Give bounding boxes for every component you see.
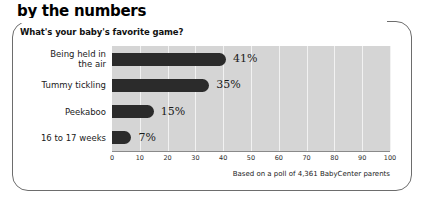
- x-tick-label: 30: [191, 154, 199, 162]
- chart-question: What's your baby's favorite game?: [20, 27, 183, 37]
- category-axis-labels: Being held inthe airTummy ticklingPeekab…: [10, 46, 106, 151]
- category-label: Tummy tickling: [10, 80, 106, 90]
- category-label-line: Tummy tickling: [10, 80, 106, 90]
- category-label-line: Peekaboo: [10, 107, 106, 117]
- x-axis-line: [112, 151, 390, 152]
- x-tick-label: 100: [384, 154, 396, 162]
- source-note: Based on a poll of 4,361 BabyCenter pare…: [233, 170, 390, 178]
- x-tick-label: 0: [110, 154, 114, 162]
- x-tick-label: 10: [136, 154, 144, 162]
- x-tick-label: 40: [219, 154, 227, 162]
- gridline: [390, 46, 391, 151]
- bar-value-label: 7%: [138, 131, 155, 144]
- bar: [112, 105, 154, 118]
- gridline: [362, 46, 363, 151]
- panel-top-notch: [17, 18, 387, 23]
- x-tick-label: 70: [302, 154, 310, 162]
- category-label: 16 to 17 weeks: [10, 133, 106, 143]
- category-label-line: Being held in: [10, 49, 106, 59]
- x-tick-label: 80: [330, 154, 338, 162]
- bar-value-label: 35%: [216, 78, 240, 91]
- x-tick-label: 90: [358, 154, 366, 162]
- bar-value-label: 15%: [161, 105, 185, 118]
- category-label: Being held inthe air: [10, 49, 106, 69]
- category-label-line: 16 to 17 weeks: [10, 133, 106, 143]
- gridline: [334, 46, 335, 151]
- gridline: [279, 46, 280, 151]
- x-tick-label: 60: [275, 154, 283, 162]
- bar-value-label: 41%: [233, 52, 257, 65]
- bar: [112, 53, 226, 66]
- category-label-line: the air: [10, 59, 106, 69]
- bar: [112, 79, 209, 92]
- gridline: [307, 46, 308, 151]
- x-tick-label: 20: [163, 154, 171, 162]
- by-the-numbers-infographic: by the numbers What's your baby's favori…: [0, 0, 424, 200]
- bar: [112, 131, 131, 144]
- category-label: Peekaboo: [10, 107, 106, 117]
- x-tick-label: 50: [247, 154, 255, 162]
